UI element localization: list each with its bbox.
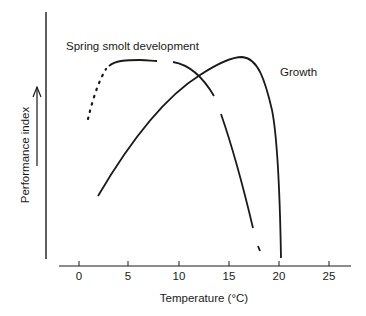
smolt-curve-plateau — [109, 60, 157, 66]
x-axis-label: Temperature (°C) — [160, 292, 248, 304]
smolt-label: Spring smolt development — [66, 40, 200, 52]
x-tick-label: 0 — [76, 270, 82, 282]
x-tick-label: 25 — [323, 270, 336, 282]
smolt-curve-dashed-2 — [221, 114, 253, 228]
x-tick-label: 5 — [125, 270, 131, 282]
y-axis-label: Performance index — [19, 106, 31, 203]
chart: 0 5 10 15 20 25 Temperature (°C) Perform… — [0, 0, 366, 316]
smolt-curve-dashed-3 — [258, 246, 260, 251]
x-tick-label: 20 — [273, 270, 286, 282]
x-tick-labels: 0 5 10 15 20 25 — [76, 270, 336, 282]
up-arrow-icon — [33, 87, 41, 166]
x-tick-label: 10 — [173, 270, 186, 282]
smolt-curve-dotted — [88, 69, 106, 119]
growth-label: Growth — [280, 66, 317, 78]
x-tick-label: 15 — [223, 270, 236, 282]
x-ticks — [79, 261, 329, 266]
